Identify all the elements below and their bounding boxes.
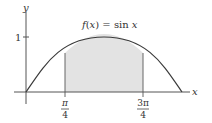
function-label: f(x) = sin x bbox=[81, 19, 138, 30]
shaded-area bbox=[65, 34, 143, 92]
y-axis-label: y bbox=[22, 2, 29, 13]
lower-bound-num: π bbox=[61, 98, 69, 108]
sine-area-diagram: y 1 x f(x) = sin x π 4 3π 4 bbox=[0, 0, 212, 123]
lower-bound-den: 4 bbox=[62, 110, 68, 120]
upper-bound-num: 3π bbox=[137, 98, 149, 108]
x-axis-label: x bbox=[192, 86, 198, 97]
upper-bound-den: 4 bbox=[140, 110, 146, 120]
y-tick-label: 1 bbox=[15, 32, 21, 43]
